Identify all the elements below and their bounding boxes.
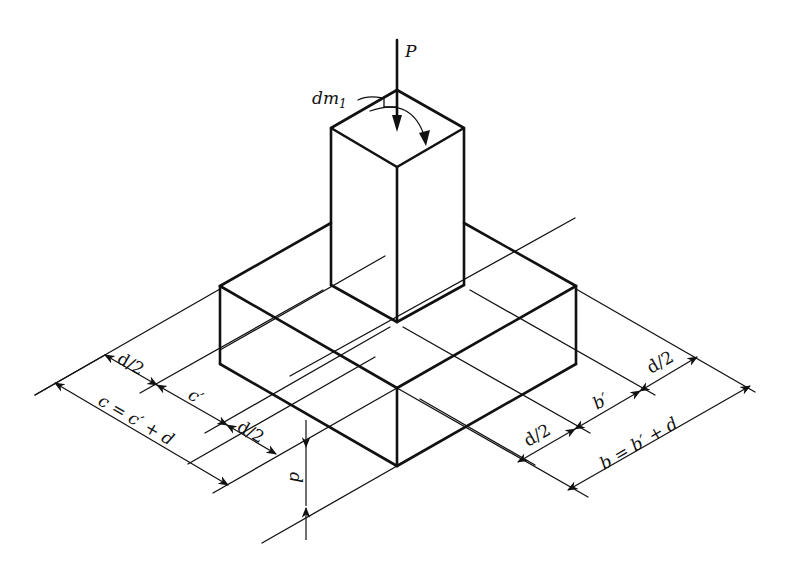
left-column-width-label: c′ xyxy=(185,384,207,408)
left-half-d-outer-label: d/2 xyxy=(114,348,148,379)
load-label: P xyxy=(404,41,417,61)
right-total-label: b = b′ + d xyxy=(596,413,681,474)
section-lines xyxy=(35,218,755,543)
moment-label: dm1 xyxy=(312,88,347,111)
right-half-d-outer-label: d/2 xyxy=(643,346,677,377)
footing-diagram: P dm1 xyxy=(0,0,788,572)
moment-symbol xyxy=(358,90,430,146)
left-total-label: c = c′ + d xyxy=(95,390,178,449)
right-half-d-inner-label: d/2 xyxy=(520,419,554,450)
depth-label: d xyxy=(286,472,306,483)
